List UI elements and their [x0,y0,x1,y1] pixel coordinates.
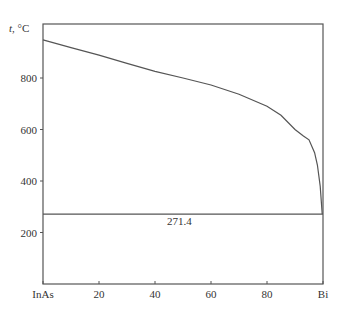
y-tick-label: 400 [21,175,38,187]
phase-diagram: 200400600800 InAs20406080Bi 271.4 t, °C [0,0,343,312]
x-tick-label: Bi [318,288,328,300]
y-tick-label: 800 [21,72,38,84]
liquidus-curve [43,40,322,214]
x-tick-label: InAs [32,288,53,300]
y-axis-label: t, °C [9,22,29,34]
plot-frame [43,24,323,284]
x-tick-label: 20 [94,288,106,300]
y-tick-label: 600 [21,124,38,136]
x-tick-label: 40 [150,288,162,300]
x-tick-label: 60 [206,288,218,300]
y-tick-label: 200 [21,227,38,239]
x-tick-label: 80 [262,288,274,300]
y-axis-ticks: 200400600800 [21,72,44,239]
eutectic-temperature-label: 271.4 [167,215,192,227]
